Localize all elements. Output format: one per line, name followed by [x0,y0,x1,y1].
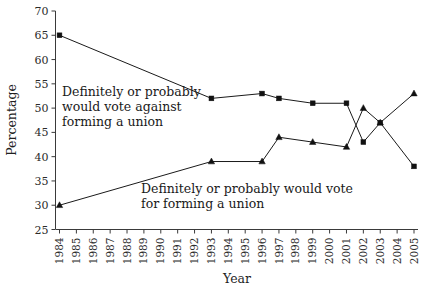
data-point-square [277,96,282,101]
y-tick-label: 25 [35,224,49,237]
data-point-square [344,101,349,106]
x-tick-label: 2003 [374,238,386,265]
y-tick-label: 70 [35,5,49,18]
annotation-against-line-1: Definitely or probably [62,84,202,99]
x-tick-label: 1995 [239,238,251,265]
x-tick-label: 1990 [154,238,166,265]
y-tick-label: 60 [35,54,49,67]
data-point-square [260,91,265,96]
annotation-against: Definitely or probably would vote agains… [62,84,202,129]
y-tick-label: 30 [35,199,49,212]
x-tick-label: 1989 [138,238,150,265]
x-tick-label: 1987 [104,238,116,265]
y-tick-label: 65 [35,29,49,42]
y-tick-label: 55 [35,78,49,91]
x-tick-label: 1991 [171,238,183,265]
x-tick-label: 2004 [391,237,403,264]
x-tick-label: 1988 [121,238,133,265]
x-tick-label: 1984 [53,237,65,264]
y-tick-label: 50 [35,102,49,115]
x-tick-label: 2001 [340,238,352,265]
y-axis-title: Percentage [4,84,19,156]
x-tick-group: 1984198519861987198819891990199119921993… [53,230,420,265]
x-axis-title: Year [222,271,251,286]
data-point-triangle [360,105,366,111]
data-point-triangle [411,90,417,96]
x-tick-label: 2002 [357,238,369,265]
y-tick-label: 40 [35,151,49,164]
x-tick-label: 1994 [222,237,234,264]
x-tick-label: 1996 [256,237,268,264]
y-tick-group: 25303540455055606570 [35,5,56,237]
data-point-square [209,96,214,101]
y-tick-label: 45 [35,126,49,139]
data-point-square [412,164,417,169]
data-point-triangle [208,158,214,164]
annotation-against-line-2: would vote against [62,99,182,114]
x-tick-label: 1992 [188,238,200,265]
line-chart-canvas: 25303540455055606570 1984198519861987198… [0,0,427,295]
annotation-against-line-3: forming a union [62,114,163,129]
x-tick-label: 1993 [205,238,217,265]
annotation-for-line-1: Definitely or probably would vote [141,181,353,196]
x-tick-label: 2000 [323,238,335,265]
x-tick-label: 1999 [306,238,318,265]
x-tick-label: 1998 [289,238,301,265]
x-tick-label: 1986 [87,237,99,264]
x-tick-label: 1985 [70,238,82,265]
annotation-for-line-2: for forming a union [141,196,264,211]
data-point-square [310,101,315,106]
data-point-square [361,140,366,145]
x-tick-label: 1997 [273,238,285,265]
data-point-triangle [276,134,282,140]
chart-figure: 25303540455055606570 1984198519861987198… [0,0,427,295]
y-tick-label: 35 [35,175,49,188]
data-point-square [57,33,62,38]
annotation-for: Definitely or probably would vote for fo… [141,181,353,211]
x-tick-label: 2005 [408,238,420,265]
